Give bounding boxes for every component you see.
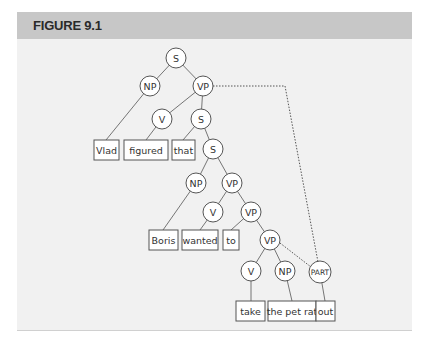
node-vp: VP xyxy=(222,173,242,193)
svg-text:S: S xyxy=(198,114,204,125)
syntax-tree: S NP VP V S S NP VP V VP VP V NP PART Vl… xyxy=(0,0,428,344)
node-v: V xyxy=(152,109,172,129)
svg-text:VP: VP xyxy=(197,81,209,92)
node-np: NP xyxy=(140,76,160,96)
svg-text:S: S xyxy=(210,144,216,155)
svg-text:wanted: wanted xyxy=(182,235,217,246)
node-v: V xyxy=(241,261,261,281)
svg-text:that: that xyxy=(174,145,194,156)
leaf-word: the pet rat xyxy=(267,301,318,321)
node-v: V xyxy=(203,202,223,222)
node-np: NP xyxy=(186,173,206,193)
leaf-word: out xyxy=(316,301,335,321)
svg-text:the pet rat: the pet rat xyxy=(267,306,318,317)
leaf-word: Boris xyxy=(149,230,178,250)
svg-text:out: out xyxy=(318,306,334,317)
svg-text:take: take xyxy=(240,306,261,317)
svg-text:NP: NP xyxy=(144,81,157,92)
svg-text:V: V xyxy=(159,114,166,125)
svg-text:VP: VP xyxy=(245,207,257,218)
node-s: S xyxy=(191,109,211,129)
leaf-word: take xyxy=(236,301,265,321)
leaf-word: that xyxy=(172,140,195,160)
svg-text:V: V xyxy=(248,266,255,277)
svg-text:VP: VP xyxy=(264,235,276,246)
svg-text:NP: NP xyxy=(190,178,203,189)
node-np: NP xyxy=(275,261,295,281)
svg-text:figured: figured xyxy=(129,145,163,156)
node-vp: VP xyxy=(193,76,213,96)
svg-text:V: V xyxy=(210,207,217,218)
node-vp: VP xyxy=(241,202,261,222)
node-vp: VP xyxy=(260,230,280,250)
node-s-embedded: S xyxy=(203,139,223,159)
svg-text:VP: VP xyxy=(226,178,238,189)
svg-text:Boris: Boris xyxy=(152,235,176,246)
leaf-word: wanted xyxy=(182,230,218,250)
svg-text:NP: NP xyxy=(279,266,292,277)
leaf-word: to xyxy=(223,230,239,250)
svg-text:to: to xyxy=(226,235,236,246)
leaf-word: Vlad xyxy=(94,140,119,160)
svg-text:PART: PART xyxy=(311,268,330,277)
leaf-word: figured xyxy=(124,140,168,160)
svg-text:Vlad: Vlad xyxy=(96,145,117,156)
svg-text:S: S xyxy=(173,53,179,64)
node-s-root: S xyxy=(166,48,186,68)
node-part: PART xyxy=(309,261,331,283)
